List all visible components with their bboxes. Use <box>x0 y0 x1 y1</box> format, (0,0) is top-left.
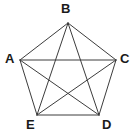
vertex-label-D: D <box>102 118 111 131</box>
diagonal-B-D <box>68 23 99 115</box>
diagonal-A-D <box>20 60 99 115</box>
pentagon-diagram-svg <box>0 0 134 133</box>
edge-group <box>20 23 116 115</box>
vertex-label-E: E <box>26 118 35 131</box>
side-B-C <box>68 23 116 60</box>
geometry-figure: A B C D E <box>0 0 134 133</box>
diagonal-B-E <box>37 23 68 115</box>
side-E-A <box>20 60 37 115</box>
vertex-label-A: A <box>5 52 14 65</box>
diagonal-C-E <box>37 60 116 115</box>
vertex-label-B: B <box>61 2 70 15</box>
side-A-B <box>20 23 68 60</box>
side-C-D <box>99 60 116 115</box>
vertex-label-C: C <box>120 52 129 65</box>
